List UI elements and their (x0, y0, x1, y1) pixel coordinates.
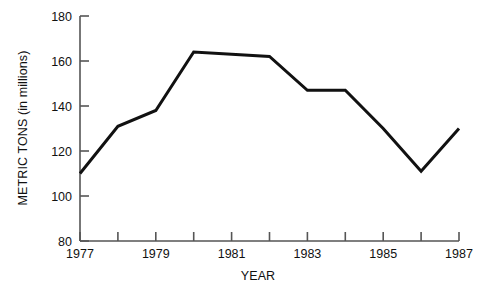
x-axis-tick-label: 1981 (218, 247, 246, 261)
x-axis-tick-label: 1987 (445, 247, 473, 261)
x-axis-tick-label: 1983 (293, 247, 321, 261)
chart-canvas: 80100120140160180 1977197919811983198519… (0, 0, 481, 293)
y-axis-tick-label: 120 (51, 145, 72, 159)
y-axis-tick-label: 100 (51, 190, 72, 204)
x-axis-tick-label: 1985 (369, 247, 397, 261)
y-axis-tick-label: 180 (51, 10, 72, 24)
x-axis-tick-label: 1977 (66, 247, 94, 261)
y-axis-title: METRIC TONS (in millions) (16, 51, 30, 206)
x-axis-tick-label: 1979 (142, 247, 170, 261)
y-axis-tick-label: 160 (51, 55, 72, 69)
x-axis-title: YEAR (241, 269, 275, 283)
line-chart: 80100120140160180 1977197919811983198519… (0, 0, 481, 293)
y-axis-tick-label: 140 (51, 100, 72, 114)
